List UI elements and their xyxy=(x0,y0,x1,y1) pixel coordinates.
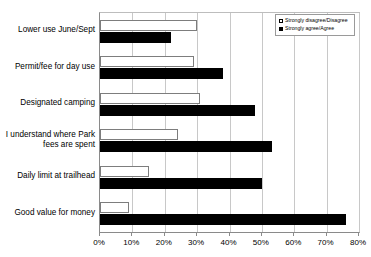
bar-group xyxy=(100,93,359,116)
bar-disagree xyxy=(100,129,178,140)
bar-agree xyxy=(100,105,255,116)
bar-group xyxy=(100,166,359,189)
gridline xyxy=(165,13,166,232)
bar-disagree xyxy=(100,20,197,31)
x-tick-mark xyxy=(99,232,100,236)
gridline xyxy=(197,13,198,232)
gridline xyxy=(359,13,360,232)
category-label: Permit/fee for day use xyxy=(0,62,95,72)
x-tick-mark xyxy=(358,232,359,236)
x-tick-mark xyxy=(196,232,197,236)
category-label: Good value for money xyxy=(0,208,95,218)
gridline xyxy=(327,13,328,232)
x-tick-mark xyxy=(131,232,132,236)
gridline xyxy=(262,13,263,232)
x-tick-mark xyxy=(293,232,294,236)
bar-disagree xyxy=(100,93,200,104)
bar-agree xyxy=(100,32,171,43)
chart-legend: Strongly disagree/Disagree Strongly agre… xyxy=(275,14,355,36)
bar-disagree xyxy=(100,56,194,67)
x-tick-label: 0% xyxy=(84,238,114,248)
bar-agree xyxy=(100,178,262,189)
category-label: Designated camping xyxy=(0,98,95,108)
legend-label-disagree: Strongly disagree/Disagree xyxy=(285,17,348,24)
hollow-square-icon xyxy=(279,19,283,23)
bar-disagree xyxy=(100,166,149,177)
category-label: Lower use June/Sept xyxy=(0,25,95,35)
bar-group xyxy=(100,129,359,152)
x-axis: 0%10%20%30%40%50%60%70%80% xyxy=(99,232,359,256)
gridline xyxy=(230,13,231,232)
filled-square-icon xyxy=(279,27,283,31)
bar-group xyxy=(100,202,359,225)
category-label: I understand where Park fees are spent xyxy=(0,130,95,150)
bar-disagree xyxy=(100,202,129,213)
bar-group xyxy=(100,56,359,79)
x-tick-mark xyxy=(229,232,230,236)
bar-agree xyxy=(100,214,346,225)
x-tick-label: 70% xyxy=(311,238,341,248)
x-tick-mark xyxy=(326,232,327,236)
gridline xyxy=(294,13,295,232)
plot-area xyxy=(99,12,360,233)
x-tick-label: 10% xyxy=(116,238,146,248)
legend-item-disagree: Strongly disagree/Disagree xyxy=(279,17,351,24)
x-tick-label: 80% xyxy=(343,238,371,248)
x-tick-label: 20% xyxy=(149,238,179,248)
x-tick-label: 30% xyxy=(181,238,211,248)
x-tick-mark xyxy=(164,232,165,236)
x-tick-label: 60% xyxy=(278,238,308,248)
x-tick-label: 40% xyxy=(214,238,244,248)
survey-bar-chart: Lower use June/SeptPermit/fee for day us… xyxy=(0,0,371,257)
category-label: Daily limit at trailhead xyxy=(0,171,95,181)
bar-agree xyxy=(100,141,272,152)
gridline xyxy=(132,13,133,232)
bar-agree xyxy=(100,68,223,79)
x-tick-mark xyxy=(261,232,262,236)
legend-item-agree: Strongly agree/Agree xyxy=(279,25,351,32)
x-tick-label: 50% xyxy=(246,238,276,248)
legend-label-agree: Strongly agree/Agree xyxy=(285,25,334,32)
category-axis: Lower use June/SeptPermit/fee for day us… xyxy=(0,12,97,231)
